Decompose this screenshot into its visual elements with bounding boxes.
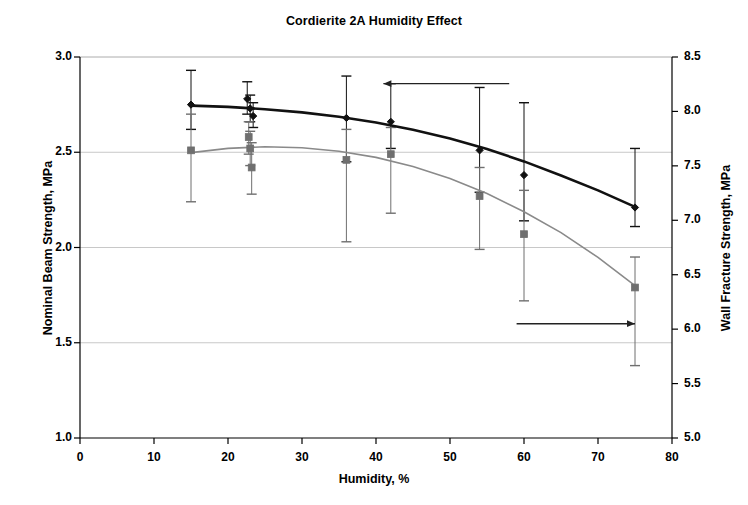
data-point-square: [387, 151, 394, 158]
data-point-square: [521, 231, 528, 238]
y-axis-right-tick-label: 8.5: [684, 49, 726, 63]
data-point-diamond: [187, 101, 194, 108]
data-point-square: [248, 164, 255, 171]
y-axis-left-tick-label: 1.5: [30, 335, 72, 349]
data-point-square: [343, 156, 350, 163]
x-axis-tick-label: 40: [356, 450, 396, 464]
y-axis-left-tick-label: 2.5: [30, 144, 72, 158]
data-point-square: [188, 147, 195, 154]
y-axis-right-tick-label: 7.5: [684, 158, 726, 172]
x-axis-tick-label: 70: [578, 450, 618, 464]
x-axis-tick-label: 50: [430, 450, 470, 464]
y-axis-left-tick-label: 1.0: [30, 430, 72, 444]
x-axis-tick-label: 10: [134, 450, 174, 464]
x-axis-tick-label: 20: [208, 450, 248, 464]
x-axis-tick-label: 0: [60, 450, 100, 464]
y-axis-right-tick-label: 5.5: [684, 376, 726, 390]
right-arrow-to-secondary-axis-head: [627, 320, 635, 327]
y-axis-right-title: Wall Fracture Strength, MPa: [716, 78, 736, 418]
left-arrow-to-primary-axis-head: [383, 80, 391, 87]
data-point-square: [245, 134, 252, 141]
data-point-diamond: [343, 114, 350, 121]
y-axis-right-tick-label: 6.0: [684, 321, 726, 335]
y-axis-right-tick-label: 7.0: [684, 212, 726, 226]
trend-line-primary: [191, 106, 635, 207]
x-axis-title: Humidity, %: [0, 472, 748, 486]
x-axis-tick-label: 60: [504, 450, 544, 464]
trend-line-secondary: [191, 147, 635, 286]
y-axis-right-tick-label: 5.0: [684, 430, 726, 444]
y-axis-left-tick-label: 2.0: [30, 240, 72, 254]
data-point-square: [476, 193, 483, 200]
data-point-square: [632, 284, 639, 291]
chart-figure: Cordierite 2A Humidity Effect Nominal Be…: [0, 0, 748, 505]
y-axis-left-tick-label: 3.0: [30, 49, 72, 63]
data-point-square: [247, 145, 254, 152]
y-axis-right-tick-label: 6.5: [684, 267, 726, 281]
y-axis-right-tick-label: 8.0: [684, 103, 726, 117]
plot-canvas: [0, 0, 748, 505]
data-point-diamond: [520, 172, 527, 179]
x-axis-tick-label: 30: [282, 450, 322, 464]
x-axis-tick-label: 80: [652, 450, 692, 464]
